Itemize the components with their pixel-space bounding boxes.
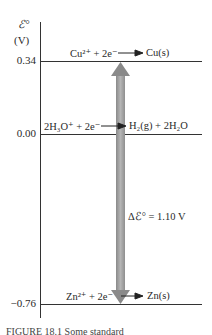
potential-difference-label: Δℰ° = 1.10 V — [128, 210, 186, 222]
double-arrow-icon — [111, 62, 130, 304]
figure-caption: FIGURE 18.1 Some standard — [6, 326, 124, 335]
arrows-graphic — [0, 0, 212, 335]
